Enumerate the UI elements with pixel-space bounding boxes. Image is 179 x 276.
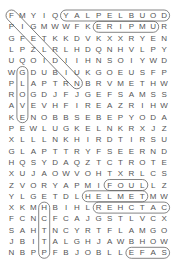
grid-cell[interactable]: D <box>39 89 50 100</box>
grid-cell[interactable]: Y <box>50 180 61 191</box>
grid-cell[interactable]: Z <box>159 123 170 134</box>
grid-cell[interactable]: L <box>6 44 17 55</box>
grid-cell[interactable]: F <box>6 10 17 21</box>
grid-cell[interactable]: C <box>148 168 159 179</box>
grid-cell[interactable]: P <box>6 123 17 134</box>
grid-cell[interactable]: L <box>17 191 28 202</box>
grid-cell[interactable]: L <box>82 10 93 21</box>
grid-cell[interactable]: K <box>6 112 17 123</box>
grid-cell[interactable]: T <box>50 78 61 89</box>
grid-cell[interactable]: B <box>126 236 137 247</box>
grid-cell[interactable]: R <box>126 33 137 44</box>
grid-cell[interactable]: A <box>126 89 137 100</box>
grid-cell[interactable]: D <box>148 112 159 123</box>
grid-cell[interactable]: T <box>115 213 126 224</box>
grid-cell[interactable]: O <box>82 168 93 179</box>
grid-cell[interactable]: W <box>50 21 61 32</box>
grid-cell[interactable]: V <box>126 44 137 55</box>
grid-cell[interactable]: M <box>17 10 28 21</box>
grid-cell[interactable]: T <box>93 157 104 168</box>
grid-cell[interactable]: K <box>82 67 93 78</box>
grid-cell[interactable]: D <box>50 55 61 66</box>
grid-cell[interactable]: N <box>28 112 39 123</box>
grid-cell[interactable]: N <box>104 44 115 55</box>
grid-cell[interactable]: O <box>148 236 159 247</box>
grid-cell[interactable]: I <box>61 67 72 78</box>
grid-cell[interactable]: A <box>39 168 50 179</box>
grid-cell[interactable]: S <box>148 89 159 100</box>
grid-cell[interactable]: H <box>148 78 159 89</box>
grid-cell[interactable]: R <box>126 168 137 179</box>
grid-cell[interactable]: M <box>137 89 148 100</box>
grid-cell[interactable]: E <box>115 146 126 157</box>
grid-cell[interactable]: B <box>17 247 28 258</box>
grid-cell[interactable]: R <box>159 21 170 32</box>
grid-cell[interactable]: H <box>6 157 17 168</box>
grid-cell[interactable]: G <box>61 123 72 134</box>
grid-cell[interactable]: N <box>50 225 61 236</box>
grid-cell[interactable]: I <box>39 10 50 21</box>
grid-cell[interactable]: O <box>137 157 148 168</box>
grid-cell[interactable]: A <box>50 236 61 247</box>
grid-cell[interactable]: R <box>71 146 82 157</box>
grid-cell[interactable]: E <box>82 112 93 123</box>
grid-cell[interactable]: P <box>39 247 50 258</box>
grid-cell[interactable]: E <box>104 112 115 123</box>
grid-cell[interactable]: Z <box>159 180 170 191</box>
grid-cell[interactable]: R <box>82 100 93 111</box>
grid-cell[interactable]: A <box>28 146 39 157</box>
grid-cell[interactable]: A <box>126 225 137 236</box>
grid-cell[interactable]: P <box>39 146 50 157</box>
grid-cell[interactable]: M <box>28 202 39 213</box>
grid-cell[interactable]: O <box>50 168 61 179</box>
grid-cell[interactable]: H <box>115 202 126 213</box>
grid-cell[interactable]: C <box>159 202 170 213</box>
grid-cell[interactable]: H <box>71 134 82 145</box>
grid-cell[interactable]: N <box>71 78 82 89</box>
grid-cell[interactable]: G <box>93 213 104 224</box>
grid-cell[interactable]: K <box>93 33 104 44</box>
grid-cell[interactable]: Y <box>137 55 148 66</box>
grid-cell[interactable]: P <box>126 21 137 32</box>
grid-cell[interactable]: R <box>126 157 137 168</box>
grid-cell[interactable]: L <box>104 247 115 258</box>
grid-cell[interactable]: I <box>61 55 72 66</box>
grid-cell[interactable]: H <box>93 168 104 179</box>
grid-cell[interactable]: T <box>115 157 126 168</box>
grid-cell[interactable]: S <box>159 247 170 258</box>
grid-cell[interactable]: E <box>126 191 137 202</box>
grid-cell[interactable]: G <box>28 21 39 32</box>
grid-cell[interactable]: T <box>137 202 148 213</box>
grid-cell[interactable]: A <box>104 100 115 111</box>
grid-cell[interactable]: E <box>93 21 104 32</box>
grid-cell[interactable]: W <box>61 21 72 32</box>
grid-cell[interactable]: R <box>104 21 115 32</box>
grid-cell[interactable]: P <box>93 10 104 21</box>
grid-cell[interactable]: M <box>137 21 148 32</box>
grid-cell[interactable]: L <box>61 236 72 247</box>
grid-cell[interactable]: Y <box>82 146 93 157</box>
grid-cell[interactable]: R <box>126 100 137 111</box>
grid-cell[interactable]: Y <box>126 112 137 123</box>
grid-cell[interactable]: B <box>93 247 104 258</box>
grid-cell[interactable]: M <box>115 78 126 89</box>
grid-cell[interactable]: E <box>126 78 137 89</box>
grid-cell[interactable]: E <box>17 123 28 134</box>
grid-cell[interactable]: J <box>148 123 159 134</box>
grid-cell[interactable]: J <box>82 213 93 224</box>
grid-cell[interactable]: I <box>28 236 39 247</box>
grid-cell[interactable]: C <box>61 225 72 236</box>
grid-cell[interactable]: L <box>39 44 50 55</box>
grid-cell[interactable]: C <box>126 202 137 213</box>
grid-cell[interactable]: A <box>6 100 17 111</box>
grid-cell[interactable]: S <box>137 67 148 78</box>
grid-cell[interactable]: O <box>148 10 159 21</box>
grid-cell[interactable]: E <box>28 33 39 44</box>
grid-cell[interactable]: K <box>17 202 28 213</box>
grid-cell[interactable]: H <box>71 202 82 213</box>
grid-cell[interactable]: E <box>159 157 170 168</box>
grid-cell[interactable]: G <box>28 89 39 100</box>
grid-cell[interactable]: V <box>82 33 93 44</box>
grid-cell[interactable]: A <box>61 180 72 191</box>
grid-cell[interactable]: L <box>28 134 39 145</box>
